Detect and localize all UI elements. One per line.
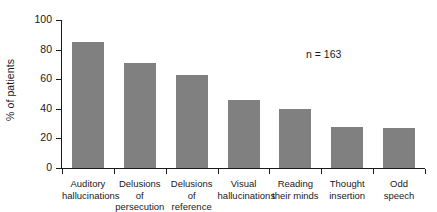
x-tick-mark [321,169,322,174]
y-tick-label: 20 [0,132,52,143]
y-tick-label: 80 [0,44,52,55]
x-axis-label-line: Reading [269,178,321,190]
y-tick-label: 40 [0,103,52,114]
x-axis-label-line: insertion [321,190,373,202]
x-axis-label: Delusions ofreference [166,178,218,212]
x-axis-label-line: speech [373,190,425,202]
x-axis-label: Oddspeech [373,178,425,201]
x-axis-label-line: Delusions of [114,178,166,201]
bar [383,128,415,168]
x-tick-mark [269,169,270,174]
x-axis-label: Thoughtinsertion [321,178,373,201]
sample-size-annotation: n = 163 [306,48,341,60]
x-tick-mark [425,169,426,174]
x-axis-label-line: hallucinations [218,190,270,202]
plot-area [62,20,425,168]
bar [124,63,156,168]
x-tick-mark [62,169,63,174]
x-axis-label: Readingtheir minds [269,178,321,201]
x-axis-label-line: reference [166,201,218,212]
x-tick-mark [218,169,219,174]
x-axis-label-line: hallucinations [62,190,114,202]
x-axis-label-line: Thought [321,178,373,190]
x-axis-label-line: Delusions of [166,178,218,201]
x-axis-label: Auditoryhallucinations [62,178,114,201]
x-axis-label: Delusions ofpersecution [114,178,166,212]
bar [279,109,311,168]
bar [228,100,260,168]
y-tick-label: 100 [0,14,52,25]
y-axis-ticks: 020406080100 [0,0,61,212]
x-axis-line [61,168,425,169]
x-tick-mark [373,169,374,174]
y-tick-label: 0 [0,162,52,173]
x-axis-label-line: their minds [269,190,321,202]
x-axis-label-line: Visual [218,178,270,190]
x-tick-mark [166,169,167,174]
y-tick-label: 60 [0,73,52,84]
bar [72,42,104,168]
bar-chart: % of patients 020406080100 Auditoryhallu… [0,0,437,212]
x-axis-label-line: Auditory [62,178,114,190]
x-axis-label: Visualhallucinations [218,178,270,201]
x-axis-label-line: Odd [373,178,425,190]
bar [176,75,208,168]
bar [331,127,363,168]
x-tick-mark [114,169,115,174]
x-axis-label-line: persecution [114,201,166,212]
